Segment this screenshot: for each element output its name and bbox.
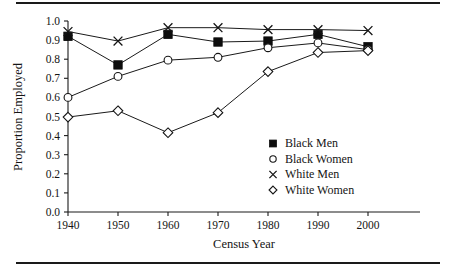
y-tick-label: 0.1 [46, 187, 61, 199]
data-point-marker [314, 39, 322, 47]
data-point-marker [114, 37, 123, 46]
y-tick-label: 0.3 [46, 149, 61, 161]
x-tick-label: 1940 [57, 219, 80, 231]
data-point-marker [270, 156, 276, 162]
chart-legend: Black MenBlack WomenWhite MenWhite Women [269, 136, 354, 197]
chart-plot: 0.00.10.20.30.40.50.60.70.80.91.0 194019… [0, 0, 456, 275]
data-point-marker [313, 48, 323, 58]
series-layer [63, 23, 373, 137]
legend-label: Black Women [285, 152, 353, 166]
data-point-marker [270, 140, 277, 147]
data-point-marker [164, 56, 172, 64]
series-line [68, 51, 368, 133]
y-tick-label: 0.0 [46, 206, 61, 218]
data-point-marker [63, 112, 73, 122]
data-point-marker [264, 44, 272, 52]
legend-item-black-women[interactable]: Black Women [270, 152, 353, 166]
figure-container: 0.00.10.20.30.40.50.60.70.80.91.0 194019… [0, 0, 456, 275]
x-tick-label: 1980 [257, 219, 280, 231]
series-black-men [64, 30, 372, 69]
data-point-marker [214, 38, 222, 46]
series-black-women [64, 39, 372, 101]
y-tick-label: 0.8 [46, 53, 61, 65]
data-point-marker [114, 61, 122, 69]
data-point-marker [64, 32, 72, 40]
y-tick-label: 0.4 [46, 130, 61, 142]
legend-label: White Men [285, 167, 339, 181]
data-point-marker [269, 186, 277, 194]
y-tick-label: 0.7 [46, 72, 61, 84]
legend-label: Black Men [285, 136, 338, 150]
x-tick-label: 1950 [107, 219, 130, 231]
x-tick-label: 1990 [307, 219, 330, 231]
y-tick-label: 1.0 [46, 15, 61, 27]
x-axis: 1940195019601970198019902000 [57, 212, 421, 231]
data-point-marker [114, 72, 122, 80]
data-point-marker [314, 30, 322, 38]
data-point-marker [214, 53, 222, 61]
x-tick-label: 1970 [207, 219, 230, 231]
data-point-marker [269, 171, 276, 178]
y-axis-title: Proportion Employed [11, 62, 25, 171]
y-tick-label: 0.6 [46, 91, 61, 103]
legend-item-black-men[interactable]: Black Men [270, 136, 338, 150]
y-tick-label: 0.9 [46, 34, 61, 46]
y-tick-label: 0.2 [46, 168, 61, 180]
x-tick-label: 1960 [157, 219, 180, 231]
y-tick-label: 0.5 [46, 111, 61, 123]
series-line [68, 43, 368, 97]
legend-label: White Women [285, 183, 354, 197]
data-point-marker [113, 106, 123, 116]
legend-item-white-men[interactable]: White Men [269, 167, 339, 181]
data-point-marker [64, 94, 72, 102]
data-point-marker [163, 128, 173, 138]
legend-item-white-women[interactable]: White Women [269, 183, 354, 197]
x-axis-title: Census Year [213, 237, 276, 251]
x-tick-label: 2000 [357, 219, 380, 231]
